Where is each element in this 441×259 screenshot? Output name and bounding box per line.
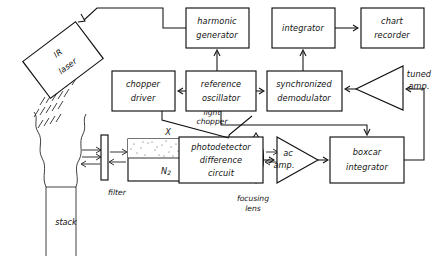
harmonic-generator-block: harmonic generator bbox=[186, 8, 249, 48]
photodetector-label-line2: difference bbox=[200, 155, 242, 165]
tuned-amp-block: tuned amp. bbox=[356, 66, 432, 110]
chopper-driver-label-line1: chopper bbox=[126, 79, 161, 89]
chart-recorder-block: chart recorder bbox=[361, 8, 424, 48]
reference-oscillator-label-line2: oscillator bbox=[202, 93, 241, 103]
boxcar-label-line2: integrator bbox=[346, 162, 388, 172]
photodetector-label-line3: circuit bbox=[208, 168, 235, 178]
reference-oscillator-label-line1: reference bbox=[201, 79, 241, 89]
ac-amp-label-line2: amp. bbox=[273, 160, 294, 170]
chart-recorder-label-line2: recorder bbox=[374, 30, 410, 40]
stack-label: stack bbox=[55, 217, 78, 227]
filter-label: filter bbox=[108, 188, 127, 197]
block-diagram-figure: stack IR laser filter bbox=[0, 0, 441, 259]
chopper-driver-block: chopper driver bbox=[112, 71, 175, 111]
sync-demodulator-label-line1: synchronized bbox=[276, 79, 332, 89]
harmonic-generator-label-line2: generator bbox=[196, 30, 238, 40]
filter-element bbox=[101, 135, 108, 180]
integrator-block: integrator bbox=[272, 8, 335, 48]
sync-demodulator-label-line2: demodulator bbox=[277, 93, 331, 103]
synchronized-demodulator-block: synchronized demodulator bbox=[267, 71, 342, 111]
tuned-amp-label-line1: tuned bbox=[407, 69, 432, 79]
integrator-label: integrator bbox=[282, 23, 324, 33]
ac-amp-block: ac amp. bbox=[273, 137, 318, 183]
chart-recorder-label-line1: chart bbox=[381, 16, 403, 26]
reference-oscillator-block: reference oscillator bbox=[186, 71, 256, 111]
photodetector-block: photodetector difference circuit bbox=[179, 137, 263, 183]
harmonic-generator-label-line1: harmonic bbox=[197, 16, 237, 26]
photodetector-label-line1: photodetector bbox=[190, 142, 251, 152]
cell-top-label: X bbox=[164, 127, 171, 137]
focusing-lens-label-line2: lens bbox=[245, 204, 261, 213]
chopper-driver-label-line2: driver bbox=[131, 93, 156, 103]
boxcar-integrator-block: boxcar integrator bbox=[330, 137, 404, 183]
focusing-lens-label-line1: focusing bbox=[237, 194, 269, 203]
ir-laser-block: IR laser bbox=[23, 22, 103, 98]
boxcar-label-line1: boxcar bbox=[353, 147, 382, 157]
ac-amp-label-line1: ac bbox=[283, 148, 293, 158]
